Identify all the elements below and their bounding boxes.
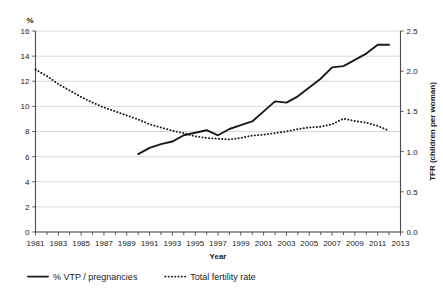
y2-tick-label: 2.0 — [407, 67, 419, 76]
x-tick-label: 2011 — [369, 239, 387, 248]
x-tick-label: 1993 — [163, 239, 181, 248]
x-tick-label: 1985 — [72, 239, 90, 248]
x-tick-label: 2013 — [392, 239, 410, 248]
y2-tick-label: 1.0 — [407, 148, 419, 157]
series-group — [36, 45, 390, 154]
chart-figure: 0246810121416 0.00.51.01.52.02.5 1981198… — [0, 0, 443, 298]
y-axis-group: 0246810121416 — [21, 27, 36, 237]
x-tick-label: 2003 — [278, 239, 296, 248]
x-tick-label: 1997 — [209, 239, 227, 248]
x-tick-label: 1991 — [141, 239, 159, 248]
line-chart: 0246810121416 0.00.51.01.52.02.5 1981198… — [0, 0, 443, 298]
y-tick-label: 0 — [25, 228, 30, 237]
x-tick-label: 1987 — [95, 239, 113, 248]
y2-axis-group: 0.00.51.01.52.02.5 — [401, 27, 419, 237]
x-tick-label: 1989 — [118, 239, 136, 248]
x-tick-label: 1999 — [232, 239, 250, 248]
legend-label: Total fertility rate — [190, 272, 256, 282]
x-tick-label: 2005 — [300, 239, 318, 248]
y-tick-label: 16 — [21, 27, 30, 36]
x-axis-title: Year — [210, 252, 227, 261]
x-tick-label: 1983 — [49, 239, 67, 248]
gridlines-group — [36, 31, 401, 232]
y2-tick-label: 2.5 — [407, 27, 419, 36]
axis-labels-group: %YearTFR (children per woman) — [27, 16, 437, 262]
y2-axis-title: TFR (children per woman) — [428, 82, 437, 181]
y-tick-label: 2 — [25, 203, 30, 212]
y-tick-label: 6 — [25, 153, 30, 162]
y2-tick-label: 0.5 — [407, 188, 419, 197]
series-line-dotted — [36, 70, 390, 140]
legend-label: % VTP / pregnancies — [53, 272, 138, 282]
y-tick-label: 14 — [21, 52, 30, 61]
x-tick-label: 2009 — [346, 239, 364, 248]
x-axis-group: 1981198319851987198919911993199519971999… — [27, 232, 410, 248]
y2-tick-label: 0.0 — [407, 228, 419, 237]
y-tick-label: 4 — [25, 178, 30, 187]
series-line-solid — [138, 45, 389, 154]
y-axis-unit-label: % — [27, 16, 34, 25]
y2-tick-label: 1.5 — [407, 107, 419, 116]
x-tick-label: 1981 — [27, 239, 45, 248]
y-tick-label: 10 — [21, 102, 30, 111]
y-tick-label: 8 — [25, 127, 30, 136]
y-tick-label: 12 — [21, 77, 30, 86]
legend-group: % VTP / pregnanciesTotal fertility rate — [28, 272, 256, 282]
x-tick-label: 1995 — [186, 239, 204, 248]
x-tick-label: 2001 — [255, 239, 273, 248]
x-tick-label: 2007 — [323, 239, 341, 248]
